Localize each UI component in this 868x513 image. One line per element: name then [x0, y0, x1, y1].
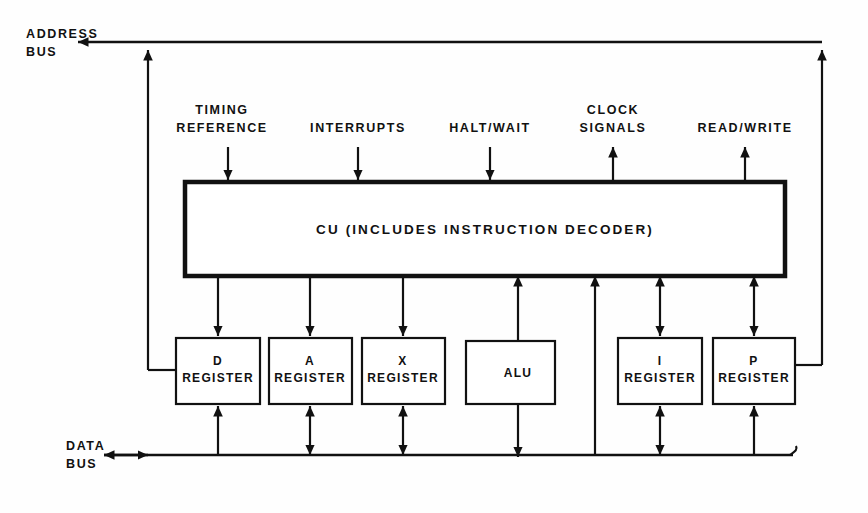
read-write-label: READ/WRITE [697, 121, 792, 135]
timing-reference-label-line2: REFERENCE [176, 121, 268, 135]
cpu-block-diagram: CU (INCLUDES INSTRUCTION DECODER) [0, 0, 868, 513]
address-bus-label-line2: BUS [26, 45, 57, 59]
data-bus-label-line2: BUS [66, 457, 97, 471]
clock-signals-label-line1: CLOCK [587, 103, 639, 117]
x-register-label-line2: REGISTER [367, 371, 439, 385]
a-register-label-line1: A [305, 354, 315, 368]
data-bus-break-mark [790, 446, 797, 455]
address-bus-label-line1: ADDRESS [26, 27, 98, 41]
i-register-label-line2: REGISTER [624, 371, 696, 385]
cu-block-label: CU (INCLUDES INSTRUCTION DECODER) [316, 222, 654, 237]
block-to-data-bus-wires [218, 404, 754, 457]
x-register-label-line1: X [398, 354, 407, 368]
d-register-label-line2: REGISTER [182, 371, 254, 385]
d-register-label-line1: D [213, 354, 223, 368]
p-register-label-line2: REGISTER [718, 371, 790, 385]
diagram-canvas: CU (INCLUDES INSTRUCTION DECODER) [0, 0, 868, 513]
halt-wait-label: HALT/WAIT [449, 121, 531, 135]
a-register-label-line2: REGISTER [274, 371, 346, 385]
data-bus-label-line1: DATA [66, 439, 105, 453]
signal-lines [228, 147, 745, 182]
timing-reference-label-line1: TIMING [195, 103, 248, 117]
interrupts-label: INTERRUPTS [310, 121, 406, 135]
i-register-label-line1: I [658, 354, 663, 368]
register-row: D REGISTER A REGISTER X REGISTER ALU I R… [176, 338, 795, 404]
clock-signals-label-line2: SIGNALS [580, 121, 647, 135]
p-register-label-line1: P [749, 354, 758, 368]
alu-label: ALU [504, 366, 533, 380]
data-bus-wire [104, 446, 797, 455]
